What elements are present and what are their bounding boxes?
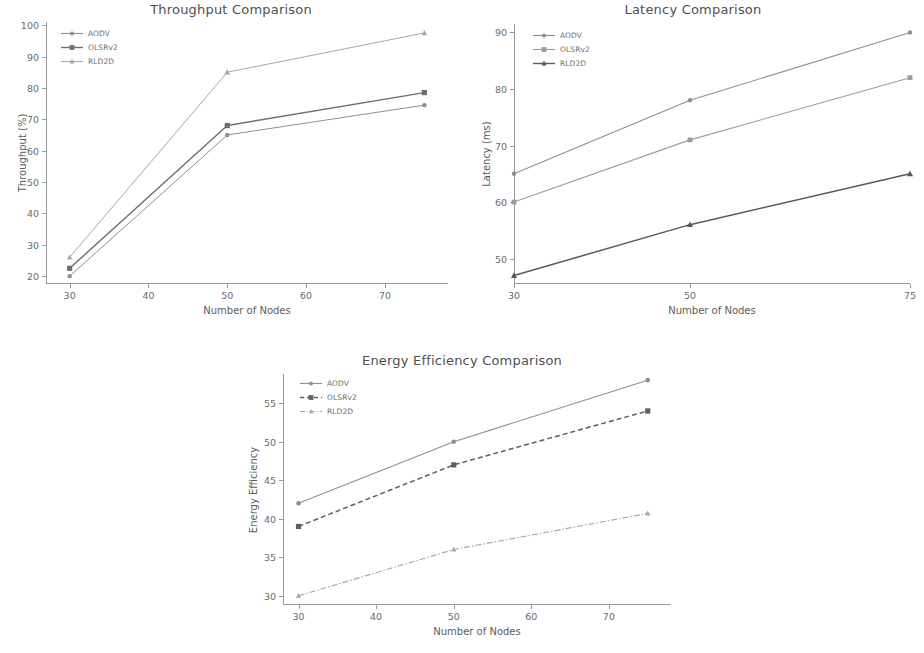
legend-swatch-aodv <box>533 31 555 40</box>
x-tick-label: 30 <box>508 290 520 301</box>
x-tick-label: 70 <box>603 611 615 622</box>
x-tick-label: 70 <box>379 290 391 301</box>
legend-swatch-aodv <box>300 379 322 388</box>
x-tick-label: 40 <box>142 290 154 301</box>
y-tick-mark <box>279 480 283 481</box>
y-tick-mark <box>42 213 46 214</box>
y-tick-label: 50 <box>27 177 39 188</box>
legend-swatch-rld2d <box>61 57 83 66</box>
y-tick-label: 30 <box>264 590 276 601</box>
data-point-aodv <box>512 172 516 176</box>
x-tick-label: 40 <box>370 611 382 622</box>
energy-y-axis-label: Energy Efficiency <box>248 446 259 532</box>
y-tick-mark <box>42 119 46 120</box>
x-tick-mark <box>514 284 515 288</box>
x-tick-mark <box>376 605 377 609</box>
x-tick-label: 30 <box>64 290 76 301</box>
legend-label-aodv: AODV <box>88 29 110 38</box>
throughput-legend: AODV OLSRv2 RLD2D <box>58 26 121 69</box>
series-line-olsrv2 <box>299 411 648 527</box>
y-tick-label: 50 <box>264 436 276 447</box>
data-point-rld2d <box>645 511 650 516</box>
y-tick-label: 70 <box>27 114 39 125</box>
series-line-olsrv2 <box>514 78 910 202</box>
legend-swatch-rld2d <box>300 407 322 416</box>
legend-item-olsrv2: OLSRv2 <box>533 44 590 55</box>
x-tick-mark <box>609 605 610 609</box>
legend-swatch-aodv <box>61 29 83 38</box>
x-tick-label: 50 <box>221 290 233 301</box>
data-point-rld2d <box>907 171 913 177</box>
x-tick-mark <box>385 284 386 288</box>
y-tick-mark <box>42 25 46 26</box>
y-tick-label: 50 <box>495 253 507 264</box>
data-point-rld2d <box>421 30 427 35</box>
y-tick-label: 40 <box>27 208 39 219</box>
y-tick-mark <box>510 202 514 203</box>
legend-label-olsrv2: OLSRv2 <box>327 393 357 402</box>
x-tick-mark <box>148 284 149 288</box>
x-tick-mark <box>299 605 300 609</box>
y-tick-label: 70 <box>495 140 507 151</box>
y-tick-mark <box>510 89 514 90</box>
x-tick-label: 50 <box>448 611 460 622</box>
throughput-chart: Throughput Comparison Throughput (%) Num… <box>0 0 462 330</box>
legend-label-aodv: AODV <box>560 31 582 40</box>
series-line-aodv <box>70 105 425 276</box>
latency-legend: AODV OLSRv2 RLD2D <box>530 28 593 71</box>
y-tick-label: 30 <box>27 239 39 250</box>
legend-item-aodv: AODV <box>533 30 590 41</box>
latency-plot-area: Latency (ms) Number of Nodes AODV OLSRv2… <box>514 24 910 284</box>
y-tick-mark <box>42 276 46 277</box>
y-tick-mark <box>279 403 283 404</box>
y-tick-label: 45 <box>264 475 276 486</box>
series-line-rld2d <box>514 174 910 276</box>
x-tick-mark <box>531 605 532 609</box>
x-tick-label: 75 <box>904 290 916 301</box>
legend-label-aodv: AODV <box>327 379 349 388</box>
x-tick-mark <box>690 284 691 288</box>
data-point-olsrv2 <box>908 75 913 80</box>
y-tick-mark <box>279 596 283 597</box>
legend-label-olsrv2: OLSRv2 <box>560 45 590 54</box>
y-tick-label: 60 <box>27 145 39 156</box>
data-point-aodv <box>645 378 650 383</box>
data-point-aodv <box>688 98 692 102</box>
data-point-aodv <box>908 30 912 34</box>
y-tick-label: 60 <box>495 197 507 208</box>
energy-legend: AODV OLSRv2 RLD2D <box>297 376 360 419</box>
latency-chart-title: Latency Comparison <box>462 2 924 17</box>
legend-item-rld2d: RLD2D <box>61 56 118 67</box>
data-point-olsrv2 <box>451 462 456 467</box>
legend-swatch-rld2d <box>533 59 555 68</box>
legend-item-rld2d: RLD2D <box>300 406 357 417</box>
throughput-chart-title: Throughput Comparison <box>0 2 462 17</box>
y-tick-mark <box>42 88 46 89</box>
energy-chart-title: Energy Efficiency Comparison <box>231 353 693 368</box>
y-tick-mark <box>279 557 283 558</box>
x-tick-mark <box>910 284 911 288</box>
data-point-olsrv2 <box>296 524 301 529</box>
y-tick-mark <box>510 32 514 33</box>
energy-x-axis-label: Number of Nodes <box>283 626 671 637</box>
legend-item-aodv: AODV <box>300 378 357 389</box>
y-tick-mark <box>279 442 283 443</box>
legend-swatch-olsrv2 <box>300 393 322 402</box>
data-point-olsrv2 <box>67 266 72 271</box>
data-point-aodv <box>67 274 71 278</box>
y-tick-mark <box>510 259 514 260</box>
data-point-olsrv2 <box>645 408 650 413</box>
data-point-aodv <box>225 133 229 137</box>
data-point-olsrv2 <box>225 123 230 128</box>
legend-label-rld2d: RLD2D <box>88 57 114 66</box>
y-tick-mark <box>42 182 46 183</box>
throughput-plot-area: Throughput (%) Number of Nodes AODV OLSR… <box>46 22 448 284</box>
series-line-olsrv2 <box>70 93 425 269</box>
x-tick-label: 50 <box>684 290 696 301</box>
legend-item-rld2d: RLD2D <box>533 58 590 69</box>
series-line-rld2d <box>299 513 648 595</box>
energy-efficiency-chart: Energy Efficiency Comparison Energy Effi… <box>231 348 693 653</box>
y-tick-mark <box>510 146 514 147</box>
y-tick-label: 35 <box>264 552 276 563</box>
energy-plot-area: Energy Efficiency Number of Nodes AODV O… <box>283 374 671 605</box>
